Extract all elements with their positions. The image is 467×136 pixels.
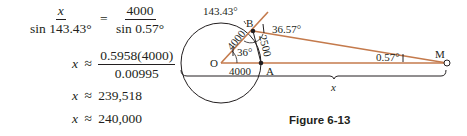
figure-caption: Figure 6-13	[289, 114, 350, 126]
label-point-O: O	[210, 57, 218, 69]
label-point-M: M	[435, 48, 445, 60]
label-angle-M: 0.57°	[376, 51, 400, 63]
label-point-A: A	[266, 65, 274, 77]
geometry-figure: 143.43° B 36.57° 36° O 4000 A M 0.57° x …	[0, 0, 467, 136]
point-B	[251, 29, 256, 34]
angle-marker-B	[263, 24, 264, 33]
distance-bracket	[181, 70, 446, 79]
label-point-B: B	[246, 17, 253, 29]
label-distance-x: x	[330, 81, 336, 93]
point-M	[444, 60, 450, 66]
label-angle-O: 36°	[237, 46, 252, 58]
line-B-M	[253, 31, 447, 63]
label-angle-B: 36.57°	[272, 23, 301, 35]
label-angle-exterior: 143.43°	[203, 5, 238, 17]
point-A	[259, 61, 264, 66]
label-side-OA: 4000	[229, 65, 252, 77]
